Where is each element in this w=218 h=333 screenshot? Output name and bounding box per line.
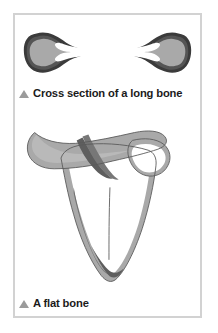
triangle-up-icon xyxy=(19,300,29,308)
flat-bone-caption: A flat bone xyxy=(19,298,89,309)
long-bone-cross-section-illustration xyxy=(15,17,200,97)
long-bone-caption: Cross section of a long bone xyxy=(19,88,182,99)
flat-bone-caption-text: A flat bone xyxy=(33,298,89,309)
figure-frame: Cross section of a long bone xyxy=(13,13,202,318)
long-bone-caption-text: Cross section of a long bone xyxy=(33,88,182,99)
figure-page: Cross section of a long bone xyxy=(0,0,218,333)
flat-bone-scapula-illustration xyxy=(15,115,200,295)
triangle-up-icon xyxy=(19,90,29,98)
long-bone-figure xyxy=(15,17,200,97)
figure-panel: Cross section of a long bone xyxy=(15,15,200,316)
flat-bone-figure xyxy=(15,115,200,295)
